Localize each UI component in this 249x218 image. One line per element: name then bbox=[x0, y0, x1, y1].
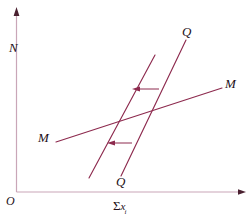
curve-label-m-left: M bbox=[38, 131, 49, 144]
curve-q-shifted bbox=[89, 55, 155, 178]
y-axis-label: N bbox=[9, 41, 18, 54]
x-variable-subscript: i bbox=[124, 208, 126, 216]
figure-container: N O Σxi Q Q M M bbox=[0, 0, 249, 218]
curve-q-original bbox=[121, 40, 186, 176]
curve-label-q-top: Q bbox=[182, 25, 191, 38]
x-axis-label: Σxi bbox=[113, 199, 127, 215]
x-axis-arrowhead bbox=[238, 189, 246, 195]
curve-label-q-bottom: Q bbox=[116, 175, 125, 188]
curve-m bbox=[56, 88, 222, 142]
origin-label: O bbox=[6, 195, 15, 207]
sigma-symbol: Σ bbox=[113, 198, 121, 213]
y-axis-arrowhead bbox=[14, 7, 20, 16]
curve-label-m-right: M bbox=[225, 77, 236, 90]
